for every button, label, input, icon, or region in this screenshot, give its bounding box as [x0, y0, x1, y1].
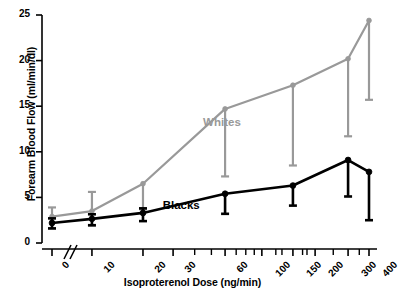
y-tick-label-10: 10 — [4, 145, 30, 156]
series-label-blacks: Blacks — [163, 199, 200, 211]
y-tick-label-20: 20 — [4, 54, 30, 65]
y-tick-label-15: 15 — [4, 99, 30, 110]
y-tick-label-25: 25 — [4, 8, 30, 19]
series-blacks — [48, 157, 373, 228]
x-axis-title: Isoproterenol Dose (ng/min) — [0, 276, 385, 288]
x-axis-break-marker — [64, 245, 77, 259]
y-tick-label-0: 0 — [4, 236, 30, 247]
x-axis-ticks — [52, 249, 369, 256]
series-label-whites: Whites — [203, 116, 241, 128]
y-axis-title: Forearm Blood Flow (ml/min/dl) — [25, 9, 37, 239]
y-tick-label-5: 5 — [4, 190, 30, 201]
